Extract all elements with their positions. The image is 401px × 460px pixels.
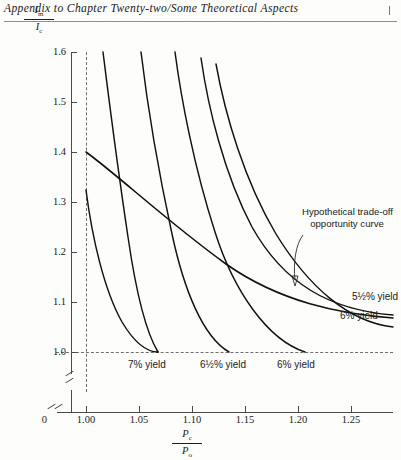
annotation-leader-line: [294, 235, 303, 280]
annotation-line-2: opportunity curve: [302, 218, 400, 230]
chart-figure: 1.6 1.5 1.4 1.3 1.2 1.1 1.0 1.00 1.05 1.…: [0, 22, 401, 454]
curve-label-6-percent-bottom: 6% yield: [277, 359, 315, 370]
curves-overlay: [0, 22, 401, 454]
fraction-bar: [24, 19, 54, 20]
curve-7-percent: [103, 52, 158, 352]
annotation-line-1: Hypothetical trade-off: [302, 206, 400, 218]
running-head: Appendix to Chapter Twenty-two/Some Theo…: [4, 2, 376, 15]
annotation-hypothetical-tradeoff: Hypothetical trade-off opportunity curve: [302, 206, 400, 231]
curve-5-half-percent: [201, 58, 393, 315]
curve-label-7-percent: 7% yield: [128, 359, 166, 370]
curve-label-6-percent-right: 6% yield: [340, 310, 378, 321]
curve-label-6-half-percent: 6½% yield: [200, 359, 246, 370]
curve-hypothetical-tradeoff: [86, 152, 393, 318]
curve-6-percent-right: [216, 64, 393, 327]
curve-6-half-percent: [141, 52, 229, 352]
y-title-numerator-sub: m: [38, 10, 43, 18]
curve-label-5-half-percent: 5½% yield: [352, 291, 398, 302]
header-tick-mark: [389, 6, 390, 15]
